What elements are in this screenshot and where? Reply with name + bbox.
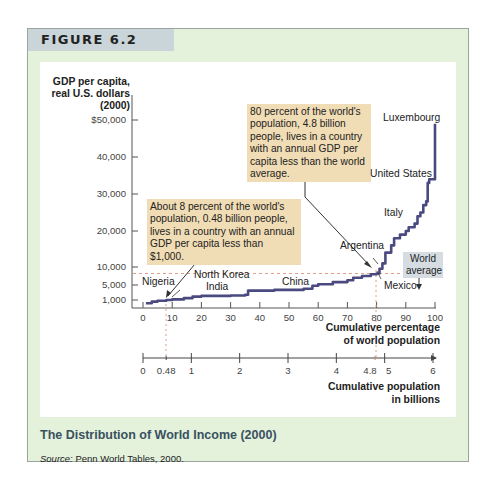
y-tick-label: $50,000 <box>60 114 126 125</box>
population-axis-title: Cumulative population in billions <box>290 380 440 406</box>
y-tick-label: 10,000 <box>60 261 126 272</box>
leader-north-korea <box>172 290 180 297</box>
y-axis-title-line: (2000) <box>50 100 130 112</box>
y-tick-label: 5,000 <box>60 279 126 290</box>
x-tick-label: 10 <box>160 312 184 323</box>
population-tick-label: 3 <box>276 365 300 376</box>
population-axis-title-line: Cumulative population <box>290 380 440 393</box>
label-united-states: United States <box>370 168 432 179</box>
y-tick-label: 1,000 <box>60 294 126 305</box>
x-tick-label: 30 <box>219 312 243 323</box>
population-tick-label: 0.48 <box>154 365 178 376</box>
pointer-line-80-diag <box>305 197 370 266</box>
label-argentina: Argentina <box>340 240 384 251</box>
pointer-arrow-icon <box>364 261 372 268</box>
y-tick-label: 20,000 <box>60 225 126 236</box>
world-average-label: World average <box>403 252 443 278</box>
label-luxembourg: Luxembourg <box>383 112 440 123</box>
population-tick-label: 0 <box>131 365 155 376</box>
figure-source: Source: Penn World Tables, 2000. <box>40 453 184 464</box>
leader-argentina <box>373 258 378 264</box>
y-axis-title-line: GDP per capita, <box>50 76 130 88</box>
population-tick-label: 5 <box>377 365 401 376</box>
source-text: Penn World Tables, 2000. <box>73 453 184 464</box>
x-axis-title-line: Cumulative percentage <box>290 321 440 334</box>
population-tick-label: 4 <box>324 365 348 376</box>
arrow-head-icon <box>431 355 437 361</box>
x-axis-title: Cumulative percentage of world populatio… <box>290 321 440 347</box>
label-mexico: Mexico <box>384 280 417 291</box>
population-tick-label: 1 <box>179 365 203 376</box>
label-italy: Italy <box>384 207 403 218</box>
y-axis-title-line: real U.S. dollars <box>50 88 130 100</box>
figure-caption: The Distribution of World Income (2000) <box>40 428 277 442</box>
x-tick-label: 0 <box>131 312 155 323</box>
x-tick-label: 40 <box>248 312 272 323</box>
y-tick-label: 30,000 <box>60 188 126 199</box>
population-tick-label: 2 <box>228 365 252 376</box>
y-tick-label: 40,000 <box>60 151 126 162</box>
y-axis-title: GDP per capita, real U.S. dollars (2000) <box>50 76 130 112</box>
x-axis-ticks <box>143 302 435 308</box>
x-axis-title-line: of world population <box>290 334 440 347</box>
label-india: India <box>206 281 228 292</box>
label-north-korea: North Korea <box>194 269 250 280</box>
annotation-8-percent: About 8 percent of the world's populatio… <box>147 199 301 265</box>
label-china: China <box>282 276 309 287</box>
population-axis-title-line: in billions <box>290 393 440 406</box>
annotation-80-percent: 80 percent of the world's population, 4.… <box>247 104 371 182</box>
population-tick-label: 6 <box>421 365 445 376</box>
x-tick-label: 20 <box>189 312 213 323</box>
source-prefix: Source: <box>40 453 73 464</box>
label-nigeria: Nigeria <box>142 276 175 287</box>
